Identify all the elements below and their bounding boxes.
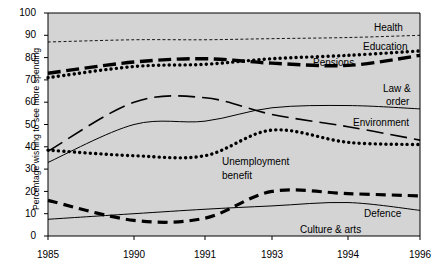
y-tick-label-60: 60	[10, 96, 36, 107]
y-tick-label-0: 0	[10, 230, 36, 241]
x-tick-label-1993: 1993	[250, 249, 294, 260]
y-tick-label-100: 100	[10, 7, 36, 18]
y-tick-label-30: 30	[10, 163, 36, 174]
series-label-education: Education	[363, 41, 407, 52]
series-label-pensions: Pensions	[313, 57, 354, 68]
series-label-unemployment-2: benefit	[222, 170, 252, 181]
y-tick-label-20: 20	[10, 186, 36, 197]
y-tick-label-50: 50	[10, 119, 36, 130]
spending-trends-chart: Percentage wishing to see more spending …	[0, 0, 441, 278]
x-tick-label-1991: 1991	[183, 249, 227, 260]
x-tick-label-1985: 1985	[26, 249, 70, 260]
series-label-unemployment-1: Unemployment	[222, 156, 289, 167]
y-tick-label-90: 90	[10, 29, 36, 40]
series-label-defence: Defence	[364, 208, 401, 219]
x-tick-label-1996: 1996	[398, 249, 441, 260]
series-label-law-order-1: Law &	[383, 83, 411, 94]
x-tick-marks	[48, 236, 420, 240]
y-tick-label-40: 40	[10, 141, 36, 152]
y-tick-label-70: 70	[10, 74, 36, 85]
series-label-law-order-2: order	[386, 96, 409, 107]
series-label-environment: Environment	[353, 117, 409, 128]
y-tick-label-80: 80	[10, 52, 36, 63]
x-tick-label-1994: 1994	[326, 249, 370, 260]
y-tick-marks	[44, 13, 48, 236]
series-label-culture-arts: Culture & arts	[300, 224, 361, 235]
x-tick-label-1990: 1990	[112, 249, 156, 260]
series-label-health: Health	[374, 22, 403, 33]
y-tick-label-10: 10	[10, 208, 36, 219]
